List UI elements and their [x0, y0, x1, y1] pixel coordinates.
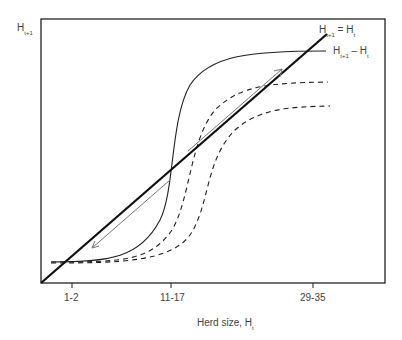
- sigmoid-curve: [51, 51, 326, 262]
- y-axis-label: Ht+1: [17, 22, 33, 33]
- x-tick-label: 11-17: [160, 292, 185, 303]
- x-tick-label: 29-35: [300, 292, 326, 303]
- x-axis-label: Herd size, Ht: [197, 317, 254, 328]
- legend-identity: Ht+1 = Ht: [319, 24, 355, 35]
- arrow-down: [92, 180, 170, 248]
- arrow-up: [188, 69, 282, 151]
- dashed-curve-2: [51, 106, 330, 263]
- identity-line: [41, 34, 327, 283]
- x-tick-label: 1-2: [64, 292, 78, 303]
- plot-frame: [41, 19, 385, 283]
- legend-change: Ht+1 – Ht: [333, 45, 369, 56]
